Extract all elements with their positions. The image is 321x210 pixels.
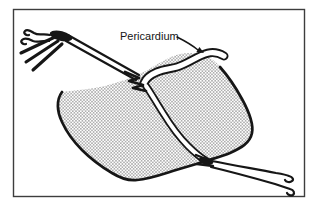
suture-free-ends-right (211, 161, 294, 195)
figure-container: Pericardium (0, 0, 321, 210)
pericardium-label: Pericardium (120, 30, 179, 42)
pericardium-diagram: Pericardium (0, 0, 321, 210)
free-end-curl-1 (24, 30, 50, 35)
suture-strand-lower (66, 41, 136, 80)
thread-end-upper (212, 161, 293, 182)
suture-underlay (70, 40, 130, 74)
thread-end-lower (211, 167, 294, 195)
label-arrow (177, 37, 204, 53)
clamp-knot (21, 29, 73, 70)
label-arrow-line (177, 37, 198, 50)
pericardium-callout: Pericardium (120, 30, 204, 53)
